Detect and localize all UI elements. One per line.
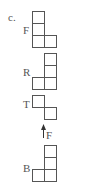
front-view-shape: [33, 12, 57, 48]
orthographic-views-diagram: [0, 0, 94, 192]
top-view-shape: [33, 96, 57, 120]
right-view-shape: [33, 54, 57, 90]
back-view-shape: [33, 146, 57, 182]
arrow-up-icon: [41, 124, 46, 138]
